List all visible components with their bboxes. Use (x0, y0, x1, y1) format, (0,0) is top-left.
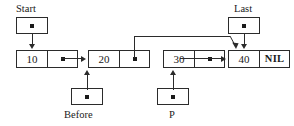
node-20[interactable]: 20 (88, 50, 150, 68)
before-to-node20-arrowhead (84, 70, 90, 75)
p-pointer-box[interactable] (157, 88, 189, 105)
p-to-node30-arrowhead (170, 70, 176, 75)
node-10-link (47, 51, 77, 67)
node-40[interactable]: 40 NIL (228, 50, 290, 68)
node-20-value: 20 (89, 51, 119, 67)
before-pointer-label: Before (64, 110, 93, 121)
node-40-value: 40 (229, 51, 259, 67)
p-to-node30-line (173, 75, 174, 90)
start-to-node10-arrowhead (29, 44, 35, 49)
link-node20-node40-vertical (134, 36, 135, 58)
link-node20-node40-horizontal (134, 36, 230, 37)
link-node30-node40-arrowhead (221, 56, 226, 62)
link-node20-node40-diagonal (230, 36, 236, 47)
link-node10-node20-arrowhead (81, 56, 86, 62)
node-10[interactable]: 10 (16, 50, 78, 68)
node-40-nil-cell: NIL (259, 51, 289, 67)
pointer-dot-icon (30, 24, 34, 28)
link-node10-node20-line (61, 58, 81, 59)
start-pointer-box[interactable] (16, 17, 48, 34)
pointer-dot-icon (171, 95, 175, 99)
pointer-dot-icon (85, 95, 89, 99)
node-30-value: 30 (164, 51, 194, 67)
last-pointer-label: Last (234, 4, 252, 15)
last-to-node40-arrowhead (241, 44, 247, 49)
link-node20-node40-arrowhead (232, 42, 238, 49)
node-30-link (194, 51, 224, 67)
p-pointer-label: P (169, 110, 175, 121)
pointer-dot-icon (242, 24, 246, 28)
node-10-value: 10 (17, 51, 47, 67)
linked-list-diagram: Start Last 10 20 30 40 NIL (0, 0, 294, 126)
last-pointer-box[interactable] (228, 17, 260, 34)
node-30[interactable]: 30 (163, 50, 225, 68)
before-pointer-box[interactable] (71, 88, 103, 105)
before-to-node20-line (87, 75, 88, 90)
link-node30-node40-line (180, 58, 221, 59)
start-pointer-label: Start (16, 4, 36, 15)
